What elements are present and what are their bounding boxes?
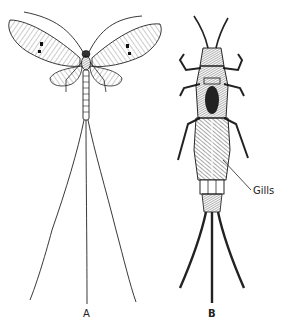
nymph-insect-b <box>178 16 248 303</box>
panel-label-a: A <box>83 309 90 319</box>
forewing-left <box>9 20 80 66</box>
adult-insect-a <box>9 12 161 304</box>
tail-filament-left <box>30 120 84 300</box>
thorax <box>82 56 91 70</box>
nymph-head <box>200 48 224 66</box>
gills-label: Gills <box>253 186 274 196</box>
tail-filament-right <box>88 120 136 302</box>
tail-filament-center <box>86 120 87 304</box>
nymph-antenna-left <box>194 16 208 48</box>
figure-canvas <box>0 0 286 325</box>
hindwing-right <box>90 66 122 86</box>
nymph-tail-right <box>218 212 244 288</box>
nymph-antenna-right <box>216 18 228 48</box>
abdomen <box>83 70 89 120</box>
panel-label-b: B <box>208 309 216 319</box>
gills-leader-line <box>223 160 251 190</box>
nymph-tail-left <box>180 212 206 288</box>
